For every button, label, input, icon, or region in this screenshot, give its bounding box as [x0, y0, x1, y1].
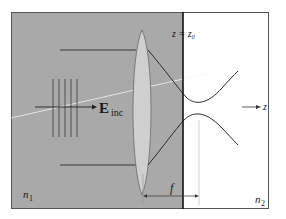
medium-1-region: [11, 12, 183, 209]
medium-2-subscript: 2: [261, 199, 265, 208]
medium-1-subscript: 1: [29, 194, 33, 203]
z-axis-label: z: [262, 101, 267, 112]
medium-2-region: [183, 12, 269, 209]
field-label: E: [99, 100, 109, 116]
field-subscript: inc: [111, 107, 124, 118]
interface-plane-label: z = z₀: [171, 28, 196, 39]
lens-focusing-diagram: E inc z = z₀ z f n 1 n 2: [0, 0, 286, 219]
